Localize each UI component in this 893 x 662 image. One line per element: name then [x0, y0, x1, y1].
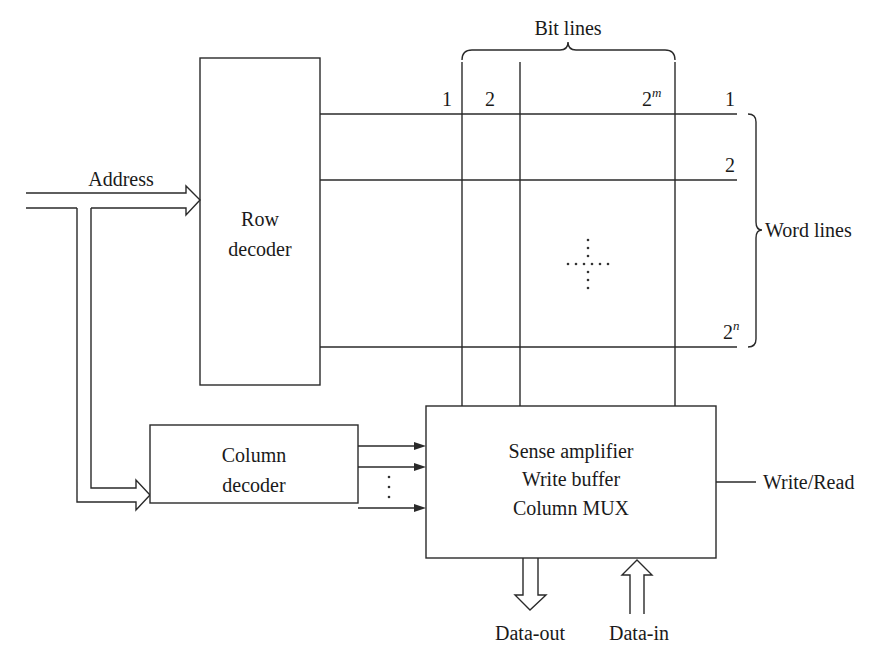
column-select-arrows [358, 442, 426, 512]
column-decoder-label-line1: Column [222, 444, 286, 466]
memory-array-diagram: Bit lines Row decoder 1 2 2m 1 2 2n Word… [0, 0, 893, 662]
data-out-arrow [515, 558, 546, 610]
data-in-arrow [622, 560, 652, 614]
bit-line-index-2m: 2m [642, 85, 661, 110]
word-lines-brace [748, 114, 762, 347]
bit-lines-brace [462, 42, 675, 60]
sense-amplifier-label: Sense amplifier [509, 440, 634, 463]
word-lines-label: Word lines [765, 219, 852, 241]
bit-line-index-1: 1 [442, 88, 452, 110]
bit-lines-label: Bit lines [534, 17, 601, 39]
write-read-label: Write/Read [763, 471, 854, 493]
column-mux-label: Column MUX [513, 497, 630, 519]
word-line-index-1: 1 [725, 88, 735, 110]
array-continuation-dots [567, 239, 610, 290]
data-in-label: Data-in [609, 622, 669, 644]
bit-line-index-2: 2 [485, 88, 495, 110]
column-decoder-label-line2: decoder [222, 474, 286, 496]
data-out-label: Data-out [495, 622, 565, 644]
row-decoder-label-line2: decoder [228, 238, 292, 260]
row-decoder-label-line1: Row [241, 208, 279, 230]
word-line-index-2: 2 [725, 154, 735, 176]
write-buffer-label: Write buffer [522, 468, 621, 490]
word-line-index-2n: 2n [723, 318, 740, 343]
address-label: Address [88, 168, 154, 190]
